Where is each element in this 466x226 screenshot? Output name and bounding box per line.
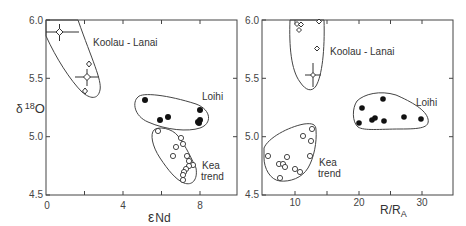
- left-x-axis-label: εNd: [148, 209, 171, 225]
- koolau-points-right: [295, 19, 322, 87]
- right-xtick-20: 20: [353, 197, 365, 208]
- koolau-label-right: Koolau - Lanai: [330, 46, 395, 57]
- kea-points-left: [155, 128, 195, 182]
- superscript-18: 18: [25, 101, 35, 111]
- loihi-points-left: [142, 97, 203, 126]
- right-x-axis-label: R/RA: [380, 203, 407, 219]
- kea-label-left-2: trend: [201, 171, 224, 182]
- diamond-marker: [56, 29, 63, 36]
- left-y-axis-label: δ18O: [16, 101, 45, 116]
- left-ytick-5-0: 5.0: [29, 131, 43, 142]
- right-ytick-5-0: 5.0: [245, 131, 259, 142]
- diamond-marker: [297, 28, 302, 33]
- delta-symbol: δ: [16, 102, 23, 116]
- right-panel: 6.0 5.5 5.0 4.5 10 20 30 R/RA: [245, 15, 453, 219]
- left-ytick-6-0: 6.0: [29, 15, 43, 26]
- koolau-points-left: [46, 24, 99, 94]
- left-panel: 6.0 5.5 5.0 4.5 0 4 8 εNd δ18O: [16, 15, 237, 225]
- koolau-label-left: Koolau - Lanai: [93, 37, 158, 48]
- right-ytick-6-0: 6.0: [245, 15, 259, 26]
- kea-label-right-2: trend: [318, 168, 341, 179]
- kea-label-left-1: Kea: [202, 160, 220, 171]
- left-xtick-8: 8: [197, 200, 203, 211]
- epsilon-symbol: ε: [148, 209, 154, 225]
- left-ytick-4-5: 4.5: [29, 189, 43, 200]
- kea-label-right-1: Kea: [319, 157, 337, 168]
- nd-text: Nd: [155, 211, 170, 225]
- r-over-r: R/R: [380, 203, 401, 217]
- koolau-envelope-right: [290, 20, 324, 90]
- subscript-a: A: [401, 209, 407, 219]
- right-ytick-5-5: 5.5: [245, 73, 259, 84]
- loihi-points-right: [356, 96, 424, 126]
- oxygen-o: O: [35, 101, 45, 116]
- loihi-label-left: Loihi: [202, 91, 223, 102]
- left-xtick-0: 0: [44, 200, 50, 211]
- left-xtick-4: 4: [120, 200, 126, 211]
- diamond-marker: [315, 46, 320, 51]
- right-ytick-4-5: 4.5: [245, 189, 259, 200]
- kea-envelope-right: [264, 124, 316, 181]
- diamond-marker: [87, 61, 92, 67]
- diamond-marker: [311, 73, 316, 78]
- right-xtick-30: 30: [416, 197, 428, 208]
- diamond-marker: [84, 74, 91, 81]
- kea-points-right: [265, 126, 314, 180]
- loihi-label-right: Loihi: [416, 97, 437, 108]
- right-xtick-10: 10: [289, 197, 301, 208]
- left-ytick-5-5: 5.5: [29, 73, 43, 84]
- diamond-marker: [299, 22, 304, 27]
- figure: 6.0 5.5 5.0 4.5 0 4 8 εNd δ18O: [0, 0, 466, 226]
